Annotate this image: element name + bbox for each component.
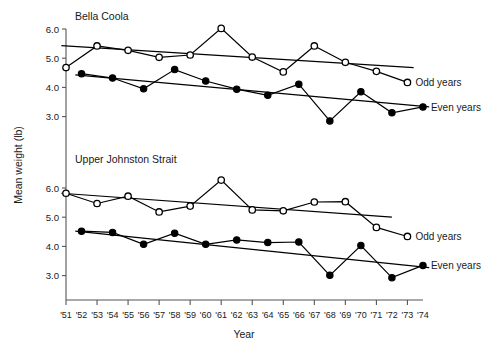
data-point-odd[interactable]: [63, 190, 69, 196]
data-point-even[interactable]: [202, 241, 208, 247]
y-axis-title: Mean weight (lb): [12, 126, 24, 204]
data-point-odd[interactable]: [280, 69, 286, 75]
legend-label-even-lower-group: Even years: [431, 260, 481, 271]
panel-title-upper-johnston: Upper Johnston Strait: [75, 153, 177, 165]
y-tick-label: 3.0: [46, 270, 59, 281]
x-tick-label: '71: [371, 310, 383, 320]
x-tick-label: '59: [184, 310, 196, 320]
x-tick-label: '72: [386, 310, 398, 320]
data-point-odd[interactable]: [342, 199, 348, 205]
x-tick-label: '55: [122, 310, 134, 320]
data-point-odd[interactable]: [404, 79, 410, 85]
x-tick-label: '64: [262, 310, 274, 320]
series-line-even: [82, 70, 423, 121]
y-tick-label: 5.0: [46, 212, 59, 223]
legend-label-even-upper-group: Even years: [431, 102, 481, 113]
x-axis-ticks: '51'52'53'54'55'56'57'58'59'60'61'62'63'…: [60, 300, 429, 320]
x-tick-label: '66: [293, 310, 305, 320]
panel-title-bella-coola: Bella Coola: [75, 10, 129, 22]
x-tick-label: '57: [153, 310, 165, 320]
data-point-odd[interactable]: [311, 43, 317, 49]
y-tick-label: 4.0: [46, 241, 59, 252]
x-tick-label: '63: [246, 310, 258, 320]
legend-label-even-lower: Even years: [431, 260, 481, 271]
y-tick-label: 6.0: [46, 183, 59, 194]
legend-label-even-upper: Even years: [431, 102, 481, 113]
data-point-even[interactable]: [109, 229, 115, 235]
data-point-even[interactable]: [389, 110, 395, 116]
x-axis-title: Year: [233, 328, 255, 340]
data-point-odd[interactable]: [249, 54, 255, 60]
x-tick-label: '62: [231, 310, 243, 320]
x-tick-label: '54: [107, 310, 119, 320]
data-point-even[interactable]: [265, 92, 271, 98]
legend-label-odd-lower-group: Odd years: [415, 231, 461, 242]
x-tick-label: '65: [277, 310, 289, 320]
y-tick-label: 4.0: [46, 82, 59, 93]
x-tick-label: '68: [324, 310, 336, 320]
legend-label-odd-lower: Odd years: [415, 231, 461, 242]
data-point-even[interactable]: [109, 75, 115, 81]
data-point-even[interactable]: [296, 239, 302, 245]
data-point-even[interactable]: [140, 86, 146, 92]
data-point-odd[interactable]: [63, 64, 69, 70]
x-tick-label: '70: [355, 310, 367, 320]
x-tick-label: '67: [308, 310, 320, 320]
data-point-even[interactable]: [358, 89, 364, 95]
data-point-odd[interactable]: [311, 199, 317, 205]
data-point-odd[interactable]: [280, 208, 286, 214]
data-point-odd[interactable]: [187, 203, 193, 209]
data-point-odd[interactable]: [94, 43, 100, 49]
data-point-even[interactable]: [171, 66, 177, 72]
data-point-odd[interactable]: [373, 224, 379, 230]
data-point-even[interactable]: [234, 86, 240, 92]
data-point-odd[interactable]: [187, 52, 193, 58]
data-point-odd[interactable]: [125, 193, 131, 199]
data-point-odd[interactable]: [156, 54, 162, 60]
chart-figure: 3.04.05.06.03.04.05.06.0'51'52'53'54'55'…: [0, 0, 489, 352]
y-axis-panel-1: 3.04.05.06.0: [46, 183, 66, 282]
data-point-odd[interactable]: [342, 59, 348, 65]
data-point-even[interactable]: [140, 241, 146, 247]
series-line-odd: [66, 180, 407, 236]
chart-canvas: 3.04.05.06.03.04.05.06.0'51'52'53'54'55'…: [0, 0, 489, 352]
y-tick-label: 6.0: [46, 24, 59, 35]
data-point-even[interactable]: [358, 242, 364, 248]
data-point-even[interactable]: [327, 272, 333, 278]
panel-0-data: [61, 25, 429, 124]
x-tick-label: '56: [138, 310, 150, 320]
data-point-odd[interactable]: [373, 68, 379, 74]
data-point-even[interactable]: [78, 70, 84, 76]
data-point-even[interactable]: [171, 230, 177, 236]
series-line-odd: [66, 28, 407, 82]
data-point-odd[interactable]: [404, 233, 410, 239]
data-point-odd[interactable]: [125, 47, 131, 53]
x-tick-label: '58: [169, 310, 181, 320]
x-tick-label: '60: [200, 310, 212, 320]
data-point-even[interactable]: [202, 78, 208, 84]
data-point-odd[interactable]: [156, 209, 162, 215]
trend-line: [75, 231, 429, 268]
data-point-even[interactable]: [420, 104, 426, 110]
data-point-even[interactable]: [327, 118, 333, 124]
data-point-even[interactable]: [296, 81, 302, 87]
data-point-odd[interactable]: [94, 200, 100, 206]
data-point-odd[interactable]: [218, 177, 224, 183]
x-tick-label: '69: [339, 310, 351, 320]
data-point-even[interactable]: [389, 274, 395, 280]
x-tick-label: '53: [91, 310, 103, 320]
data-point-even[interactable]: [234, 237, 240, 243]
y-tick-label: 5.0: [46, 53, 59, 64]
x-tick-label: '52: [76, 310, 88, 320]
x-tick-label: '51: [60, 310, 72, 320]
x-tick-label: '61: [215, 310, 227, 320]
data-point-even[interactable]: [265, 239, 271, 245]
data-point-odd[interactable]: [249, 207, 255, 213]
data-point-even[interactable]: [420, 262, 426, 268]
y-axis-panel-0: 3.04.05.06.0: [46, 24, 66, 123]
data-point-even[interactable]: [78, 228, 84, 234]
data-point-odd[interactable]: [218, 25, 224, 31]
x-tick-label: '73: [402, 310, 414, 320]
trend-line: [61, 193, 392, 217]
panel-1-data: [61, 177, 429, 281]
